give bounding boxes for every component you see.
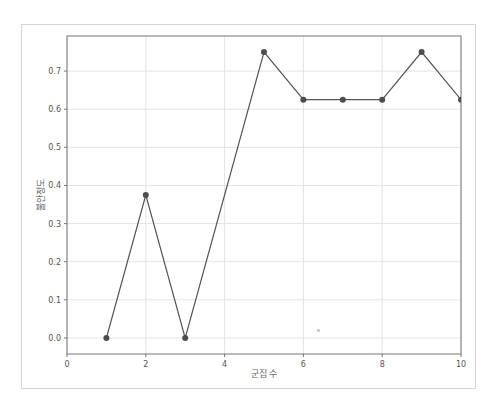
- y-tick-label: 0.0: [48, 334, 61, 343]
- x-axis-label: 군집 수: [251, 368, 278, 379]
- data-series: [103, 49, 464, 341]
- data-point-marker: [458, 97, 464, 103]
- y-tick-label: 0.1: [48, 296, 61, 305]
- axes: [64, 36, 461, 357]
- y-tick-label: 0.7: [48, 67, 61, 76]
- data-point-marker: [261, 49, 267, 55]
- data-point-marker: [419, 49, 425, 55]
- x-tick-label: 2: [143, 360, 148, 369]
- x-tick-label: 10: [456, 360, 466, 369]
- data-point-marker: [340, 97, 346, 103]
- y-tick-label: 0.3: [48, 220, 61, 229]
- x-tick-label: 8: [380, 360, 385, 369]
- artifact-dot: [317, 329, 320, 332]
- y-tick-label: 0.6: [48, 105, 61, 114]
- data-point-marker: [103, 335, 109, 341]
- y-tick-label: 0.5: [48, 143, 61, 152]
- series-line: [106, 52, 461, 338]
- y-axis-label: 불안정도: [36, 179, 46, 211]
- x-tick-label: 0: [64, 360, 69, 369]
- data-point-marker: [300, 97, 306, 103]
- data-point-marker: [182, 335, 188, 341]
- grid-lines: [67, 36, 461, 354]
- plot-area-border: [67, 36, 461, 354]
- data-point-marker: [143, 192, 149, 198]
- data-point-marker: [379, 97, 385, 103]
- x-tick-label: 6: [301, 360, 306, 369]
- y-tick-label: 0.2: [48, 258, 61, 267]
- line-chart: 02468100.00.10.20.30.40.50.60.7 군집 수 불안정…: [0, 0, 499, 411]
- x-tick-label: 4: [222, 360, 227, 369]
- y-tick-label: 0.4: [48, 181, 61, 190]
